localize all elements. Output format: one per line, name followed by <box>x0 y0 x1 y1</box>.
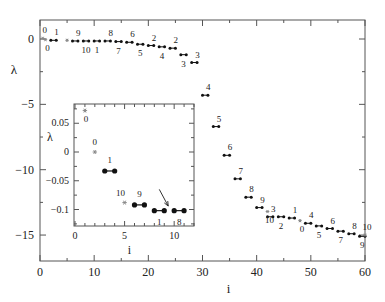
data-pair: 7 <box>336 230 344 246</box>
point-label: 10 <box>363 222 373 232</box>
y-axis-label: λ <box>11 62 18 77</box>
x-tick-label: 30 <box>197 265 209 279</box>
inset-y-tick-label: 0 <box>64 146 69 157</box>
pair-label: 10 <box>82 45 92 55</box>
data-pair: 5 <box>315 224 323 240</box>
inset-plot: 05100.050−0.05−0.1iλ00101918 <box>46 104 194 257</box>
inset-point-label: 0 <box>93 137 98 147</box>
data-pair: 9 <box>255 195 265 210</box>
pair-label: 1 <box>95 45 100 55</box>
pair-label: 8 <box>352 221 357 231</box>
inset-plot-frame <box>74 104 194 226</box>
y-tick-label: −15 <box>15 228 34 242</box>
pair-label: 4 <box>309 210 314 220</box>
pair-label: 7 <box>338 235 343 245</box>
chart-canvas: 01020304050600−5−10−15iλ1910187652423345… <box>0 0 385 302</box>
inset-y-tick-label: −0.05 <box>46 175 69 186</box>
y-tick-label: −5 <box>21 97 34 111</box>
pair-label: 9 <box>260 195 265 205</box>
x-tick-label: 40 <box>251 265 263 279</box>
data-pair: 6 <box>326 216 336 231</box>
inset-point-label: 10 <box>116 188 126 198</box>
data-pair: 2 <box>277 215 285 231</box>
pair-label: 6 <box>130 29 135 39</box>
data-pair: 5 <box>212 114 222 129</box>
star-marker <box>65 39 69 42</box>
pair-label: 3 <box>195 50 200 60</box>
data-pair: 3 <box>190 50 200 65</box>
x-tick-label: 60 <box>359 265 371 279</box>
data-pair: 4 <box>201 82 211 97</box>
data-pair: 6 <box>223 142 233 157</box>
inset-point-label: 0 <box>84 114 89 124</box>
pair-label: 9 <box>360 240 365 250</box>
data-pair: 4 <box>158 45 166 61</box>
pair-label: 2 <box>152 33 157 43</box>
x-tick-label: 10 <box>88 265 100 279</box>
inset-x-tick-label: 0 <box>73 230 78 241</box>
pair-label: 2 <box>279 221 284 231</box>
inset-x-axis-label: i <box>128 243 132 257</box>
pair-label: 7 <box>116 46 121 56</box>
data-pair: 10 <box>82 39 92 55</box>
inset-pair-label: 1 <box>107 155 112 165</box>
inset-pair-label: 1 <box>157 217 162 227</box>
y-tick-label: −10 <box>15 163 34 177</box>
y-tick-label: 0 <box>28 32 34 46</box>
data-pair: 2 <box>147 33 156 48</box>
data-pair: 1 <box>93 39 101 55</box>
pair-label: 3 <box>181 59 186 69</box>
inset-pair-label: 9 <box>137 189 142 199</box>
data-pair: 3 <box>179 53 187 69</box>
inset-x-tick-label: 10 <box>169 230 179 241</box>
data-pair: 8 <box>244 184 254 199</box>
inset-y-tick-label: −0.1 <box>51 204 69 215</box>
point-label: 10 <box>265 215 275 225</box>
x-tick-label: 50 <box>305 265 317 279</box>
x-tick-label: 0 <box>37 265 43 279</box>
pair-label: 5 <box>317 230 322 240</box>
data-pair: 4 <box>304 210 314 225</box>
inset-y-tick-label: 0.05 <box>52 117 70 128</box>
pair-label: 1 <box>54 27 59 37</box>
data-pair: 2 <box>169 35 178 50</box>
data-pair: 5 <box>136 43 144 59</box>
pair-label: 6 <box>228 142 233 152</box>
data-pair: 6 <box>125 29 135 44</box>
point-label: 0 <box>300 224 305 234</box>
data-pair: 8 <box>347 221 357 236</box>
data-pair: 7 <box>234 166 244 181</box>
x-axis-label: i <box>227 281 231 296</box>
data-pair: 1 <box>288 205 297 220</box>
inset-y-axis-label: λ <box>47 130 53 144</box>
x-tick-label: 20 <box>142 265 154 279</box>
pair-label: 4 <box>160 51 165 61</box>
data-pair: 1 <box>49 27 58 42</box>
inset-pair-label: 8 <box>177 217 182 227</box>
pair-label: 3 <box>271 204 276 214</box>
point-label: 0 <box>42 25 47 35</box>
pair-label: 5 <box>138 48 143 58</box>
pair-label: 5 <box>217 114 222 124</box>
pair-label: 6 <box>331 216 336 226</box>
pair-label: 7 <box>238 166 243 176</box>
data-pair: 9 <box>71 28 81 43</box>
pair-label: 9 <box>76 28 81 38</box>
pair-label: 8 <box>108 28 113 38</box>
star-marker <box>298 219 302 222</box>
star-marker <box>266 210 270 213</box>
pair-label: 2 <box>173 35 178 45</box>
pair-label: 1 <box>293 205 298 215</box>
pair-label: 8 <box>249 184 254 194</box>
data-pair: 7 <box>114 40 122 56</box>
point-label: 0 <box>45 43 50 53</box>
data-pair: 8 <box>104 28 114 43</box>
pair-label: 4 <box>206 82 211 92</box>
inset-x-tick-label: 5 <box>122 230 127 241</box>
